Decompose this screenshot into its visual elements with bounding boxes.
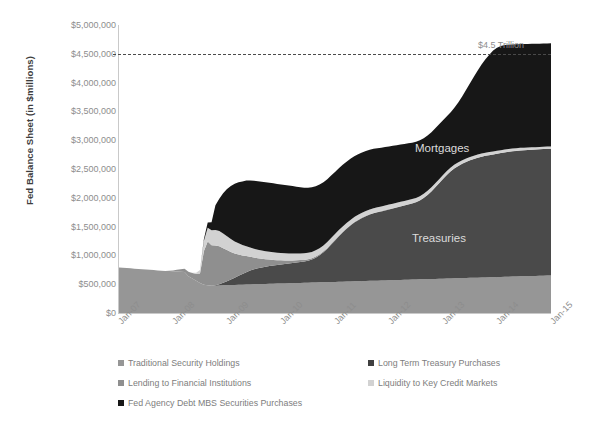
x-axis-tick-label: Jan-15 bbox=[548, 300, 575, 327]
legend-item[interactable]: Fed Agency Debt MBS Securities Purchases bbox=[118, 398, 302, 408]
legend-row: Fed Agency Debt MBS Securities Purchases bbox=[118, 398, 578, 418]
legend-item-label: Lending to Financial Institutions bbox=[128, 378, 251, 388]
x-axis-tick-label: Jan-12 bbox=[386, 300, 413, 327]
legend-item[interactable]: Liquidity to Key Credit Markets bbox=[368, 378, 497, 388]
chart-page: Fed Balance Sheet (in $millions) $5,000,… bbox=[0, 0, 589, 443]
legend-swatch-icon bbox=[118, 400, 124, 406]
legend-swatch-icon bbox=[368, 360, 374, 366]
legend-item[interactable]: Long Term Treasury Purchases bbox=[368, 358, 500, 368]
legend-swatch-icon bbox=[368, 380, 374, 386]
legend-item-label: Long Term Treasury Purchases bbox=[378, 358, 500, 368]
x-axis-tick-label: Jan-07 bbox=[116, 300, 143, 327]
legend-item[interactable]: Traditional Security Holdings bbox=[118, 358, 240, 368]
legend-item-label: Liquidity to Key Credit Markets bbox=[378, 378, 497, 388]
legend-row: Lending to Financial InstitutionsLiquidi… bbox=[118, 378, 578, 398]
x-axis-tick-label: Jan-09 bbox=[224, 300, 251, 327]
chart-legend: Traditional Security HoldingsLong Term T… bbox=[118, 358, 578, 418]
legend-swatch-icon bbox=[118, 360, 124, 366]
legend-item[interactable]: Lending to Financial Institutions bbox=[118, 378, 251, 388]
legend-row: Traditional Security HoldingsLong Term T… bbox=[118, 358, 578, 378]
x-axis-tick-label: Jan-14 bbox=[494, 300, 521, 327]
x-axis-tick-label: Jan-13 bbox=[440, 300, 467, 327]
x-axis-tick-label: Jan-11 bbox=[332, 300, 358, 326]
legend-item-label: Traditional Security Holdings bbox=[128, 358, 240, 368]
legend-item-label: Fed Agency Debt MBS Securities Purchases bbox=[128, 398, 302, 408]
x-axis-tick-label: Jan-08 bbox=[170, 300, 197, 327]
legend-swatch-icon bbox=[118, 380, 124, 386]
x-axis-tick-label: Jan-10 bbox=[278, 300, 305, 327]
